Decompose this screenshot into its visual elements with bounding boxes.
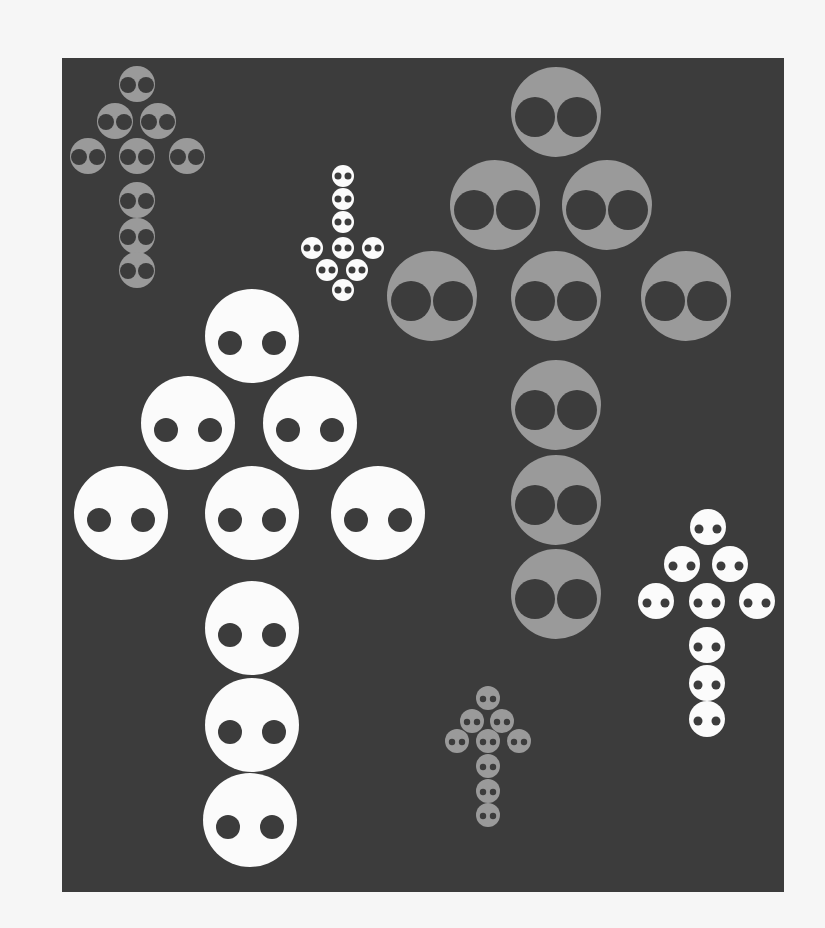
eye-dot [345,196,352,203]
eye-dot [454,190,494,230]
eye-dot [359,267,366,274]
eye-dot [154,418,178,442]
face-circle [205,466,299,560]
eye-dot [490,813,496,819]
eye-dot [89,149,105,165]
eye-dot [138,149,154,165]
eye-dot [218,623,242,647]
eye-dot [490,696,496,702]
eye-dot [138,263,154,279]
eye-dot [262,331,286,355]
eye-dot [320,418,344,442]
eye-dot [515,390,555,430]
eye-dot [218,720,242,744]
eye-dot [345,245,352,252]
eye-dot [464,719,470,725]
eye-dot [449,739,455,745]
eye-dot [480,764,486,770]
face-circle [140,103,176,139]
face-circle [664,546,700,582]
face-circle [169,138,205,174]
eye-dot [120,193,136,209]
eye-dot [262,508,286,532]
face-circle [689,701,725,737]
eye-dot [131,508,155,532]
small-white-down-arrow [301,165,384,301]
eye-dot [349,267,356,274]
eye-dot [511,739,517,745]
eye-dot [304,245,311,252]
eye-dot [645,281,685,321]
face-circle [476,729,500,753]
eye-dot [496,190,536,230]
eye-dot [712,643,721,652]
eye-dot [459,739,465,745]
eye-dot [319,267,326,274]
face-circle [119,66,155,102]
face-circle [511,549,601,639]
small-gray-up-arrow-top-left [70,66,205,288]
face-circle [507,729,531,753]
face-circle [476,803,500,827]
large-white-up-arrow [74,289,425,867]
face-circle [301,237,323,259]
eye-dot [474,719,480,725]
face-circle [387,251,477,341]
eye-dot [218,331,242,355]
face-circle [511,455,601,545]
eye-dot [345,219,352,226]
face-circle [331,466,425,560]
eye-dot [490,764,496,770]
face-circle [689,665,725,701]
eye-dot [694,599,703,608]
face-circle [205,581,299,675]
eye-dot [116,114,132,130]
eye-dot [218,508,242,532]
eye-dot [87,508,111,532]
eye-dot [335,173,342,180]
eye-dot [120,149,136,165]
eye-dot [345,173,352,180]
eye-dot [695,525,704,534]
eye-dot [515,579,555,619]
eye-dot [694,717,703,726]
eye-dot [391,281,431,321]
eye-dot [262,623,286,647]
face-circle [511,251,601,341]
face-circle [205,678,299,772]
face-circle [739,583,775,619]
eye-dot [138,77,154,93]
face-circle [690,509,726,545]
eye-dot [494,719,500,725]
eye-dot [198,418,222,442]
eye-dot [276,418,300,442]
face-circle [476,779,500,803]
face-circle [316,259,338,281]
eye-dot [557,579,597,619]
face-circle [119,138,155,174]
face-circle [476,686,500,710]
eye-dot [490,739,496,745]
eye-dot [344,508,368,532]
eye-dot [188,149,204,165]
face-circle [332,237,354,259]
arrow-stage [0,0,825,928]
face-circle [460,709,484,733]
eye-dot [712,681,721,690]
eye-dot [643,599,652,608]
eye-dot [687,281,727,321]
eye-dot [141,114,157,130]
face-circle [445,729,469,753]
eye-dot [138,229,154,245]
eye-dot [687,562,696,571]
eye-dot [480,789,486,795]
eye-dot [216,815,240,839]
small-gray-up-arrow-bottom [445,686,531,827]
face-circle [332,188,354,210]
face-circle [346,259,368,281]
eye-dot [98,114,114,130]
medium-white-up-arrow-right [638,509,775,737]
eye-dot [712,717,721,726]
eye-dot [694,643,703,652]
eye-dot [694,681,703,690]
